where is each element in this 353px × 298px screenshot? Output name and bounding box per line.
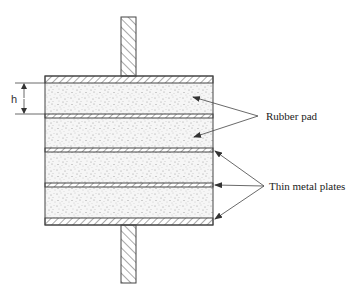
rubber-pad-label: Rubber pad [266, 110, 318, 122]
bearing-diagram: h Rubber pad Thin metal plates [0, 0, 353, 298]
top-end-plate [45, 76, 213, 83]
thin-plate-2 [45, 148, 213, 152]
dimension-label-h: h [11, 93, 17, 105]
rubber-layer-2 [45, 118, 213, 148]
top-rod [121, 17, 136, 76]
rubber-layer-4 [45, 187, 213, 218]
bottom-rod [121, 225, 136, 283]
thin-plate-1 [45, 114, 213, 118]
thin-plate-3 [45, 183, 213, 187]
thin-metal-plates-label: Thin metal plates [269, 180, 345, 192]
thin-metal-plates-callout: Thin metal plates [215, 151, 345, 219]
dimension-h: h [11, 83, 45, 114]
rubber-layer-3 [45, 152, 213, 183]
rubber-layer-1 [45, 83, 213, 114]
bottom-end-plate [45, 218, 213, 225]
